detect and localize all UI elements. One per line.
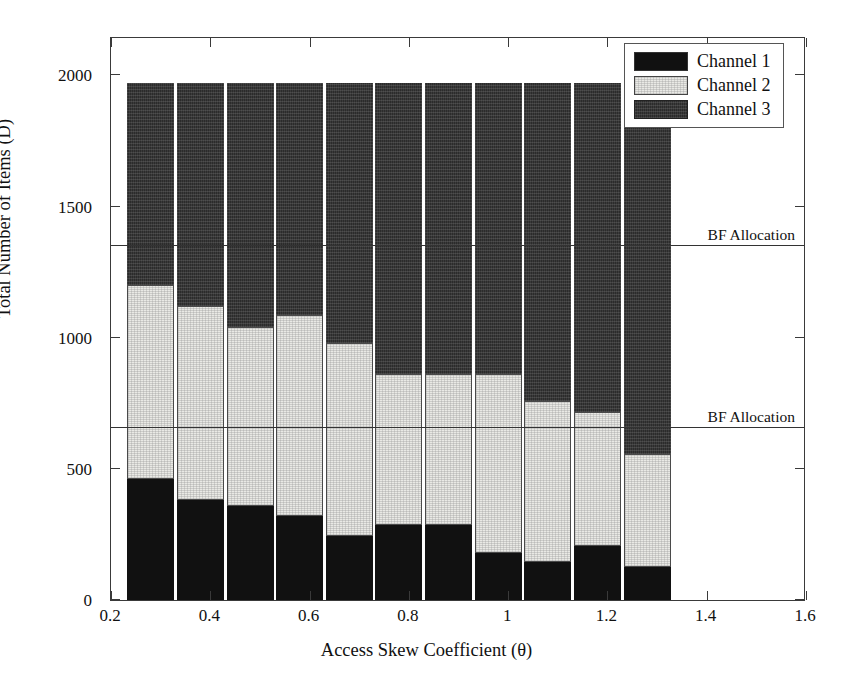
x-axis-tick	[607, 38, 608, 47]
legend-item-label: Channel 1	[697, 51, 771, 72]
legend-item-label: Channel 3	[697, 99, 771, 120]
y-axis-tick	[111, 468, 120, 469]
y-axis-tick-label: 0	[84, 591, 93, 611]
y-axis-tick-label: 1500	[58, 198, 92, 218]
legend-item-label: Channel 2	[697, 75, 771, 96]
x-axis-tick	[508, 591, 509, 600]
y-axis-tick	[111, 337, 120, 338]
legend-item: Channel 1	[634, 51, 771, 72]
x-axis-tick	[210, 38, 211, 47]
bf-allocation-line	[111, 427, 804, 428]
y-axis-tick	[795, 468, 804, 469]
x-axis-tick-label: 0.6	[298, 606, 319, 626]
y-axis-tick-label: 500	[67, 460, 93, 480]
y-axis-tick-labels: 0500100015002000	[0, 37, 104, 601]
bf-allocation-label: BF Allocation	[705, 226, 798, 243]
figure: Total Number of Items (D) 05001000150020…	[0, 0, 853, 685]
y-axis-tick-label: 2000	[58, 66, 92, 86]
y-axis-tick	[795, 599, 804, 600]
x-axis-tick	[111, 591, 112, 600]
y-axis-tick	[111, 206, 120, 207]
x-axis-title: Access Skew Coefficient (θ)	[0, 640, 853, 661]
x-axis-tick-label: 1.6	[794, 606, 815, 626]
x-axis-tick	[210, 591, 211, 600]
y-axis-tick	[795, 337, 804, 338]
y-axis-tick	[795, 74, 804, 75]
legend-swatch-icon	[634, 100, 688, 119]
x-axis-tick	[707, 591, 708, 600]
legend-item: Channel 2	[634, 75, 771, 96]
legend: Channel 1Channel 2Channel 3	[624, 43, 784, 128]
x-axis-tick	[409, 591, 410, 600]
x-axis-tick	[508, 38, 509, 47]
x-axis-tick	[806, 591, 807, 600]
y-axis-tick	[111, 74, 120, 75]
x-axis-tick	[806, 38, 807, 47]
y-axis-tick	[111, 599, 120, 600]
x-axis-tick-label: 0.8	[397, 606, 418, 626]
x-axis-tick	[310, 38, 311, 47]
bf-allocation-line	[111, 245, 804, 246]
y-axis-tick	[795, 206, 804, 207]
x-axis-tick	[409, 38, 410, 47]
legend-swatch-icon	[634, 76, 688, 95]
x-axis-tick-label: 0.4	[199, 606, 220, 626]
bf-allocation-label: BF Allocation	[705, 408, 798, 425]
legend-item: Channel 3	[634, 99, 771, 120]
legend-swatch-icon	[634, 52, 688, 71]
y-axis-tick-label: 1000	[58, 329, 92, 349]
x-axis-tick-label: 1.2	[596, 606, 617, 626]
x-axis-tick-label: 1	[503, 606, 512, 626]
x-axis-tick	[111, 38, 112, 47]
x-axis-tick	[310, 591, 311, 600]
x-axis-tick	[607, 591, 608, 600]
x-axis-tick-labels: 0.20.40.60.811.21.41.6	[110, 606, 805, 634]
x-axis-tick-label: 0.2	[99, 606, 120, 626]
x-axis-tick-label: 1.4	[695, 606, 716, 626]
